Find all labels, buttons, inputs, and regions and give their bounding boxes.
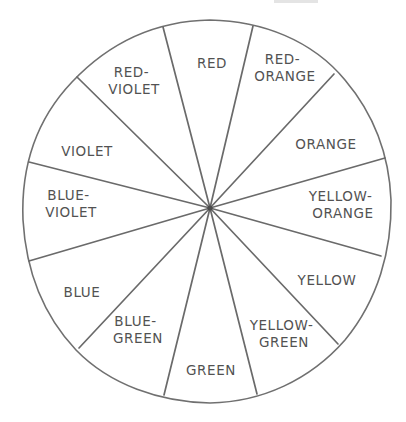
segment-label-red-violet[interactable]: RED- VIOLET <box>108 64 160 97</box>
segment-label-yellow-green[interactable]: YELLOW- GREEN <box>249 317 319 350</box>
segment-label-blue-green[interactable]: BLUE- GREEN <box>113 313 163 346</box>
spoke-line <box>210 26 253 208</box>
wheel-hub <box>207 205 212 210</box>
segment-label-violet[interactable]: VIOLET <box>61 143 113 159</box>
segment-label-red[interactable]: RED <box>197 55 227 71</box>
scan-mark <box>274 0 318 3</box>
segment-label-yellow-orange[interactable]: YELLOW- ORANGE <box>308 188 378 221</box>
color-wheel: RED RED- ORANGE ORANGE YELLOW- ORANGE YE… <box>0 0 406 422</box>
segment-label-orange[interactable]: ORANGE <box>295 136 356 152</box>
segment-label-red-orange[interactable]: RED- ORANGE <box>254 51 315 84</box>
segment-label-green[interactable]: GREEN <box>186 362 236 378</box>
segment-label-blue[interactable]: BLUE <box>64 284 101 300</box>
segment-label-blue-violet[interactable]: BLUE- VIOLET <box>45 187 97 220</box>
segment-label-yellow[interactable]: YELLOW <box>297 272 357 288</box>
